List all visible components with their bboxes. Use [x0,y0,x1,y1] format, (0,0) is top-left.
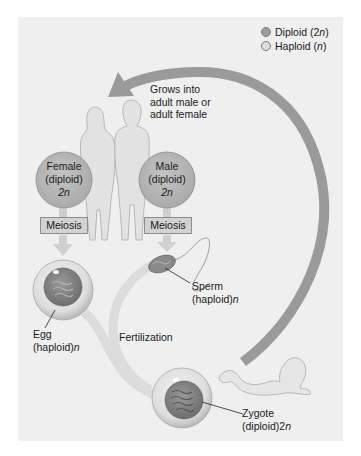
legend-item-haploid: Haploid (n) [261,39,329,53]
legend: Diploid (2n) Haploid (n) [261,25,329,53]
sperm-label: Sperm (haploid)n [192,280,239,305]
female-label: Female (diploid) 2n [38,160,90,199]
haploid-swatch-icon [261,41,271,51]
legend-label-diploid: Diploid (2n) [275,26,329,38]
fertilization-paths [84,262,158,396]
male-label: Male (diploid) 2n [141,160,193,199]
baby-figure [219,358,310,395]
legend-label-haploid: Haploid (n) [275,40,326,52]
fertilization-label: Fertilization [119,331,173,344]
meiosis-box-male: Meiosis [144,217,192,234]
legend-item-diploid: Diploid (2n) [261,25,329,39]
zygote-label: Zygote (diploid)2n [242,407,291,432]
diploid-swatch-icon [261,27,271,37]
growth-label: Grows into adult male or adult female [150,83,211,121]
egg-label: Egg (haploid)n [33,328,80,353]
meiosis-box-female: Meiosis [40,217,88,234]
